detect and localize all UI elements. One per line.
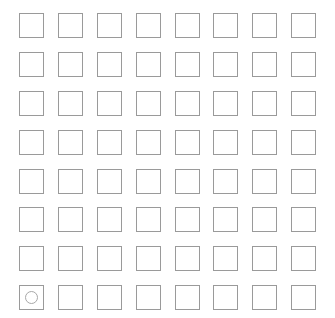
grid-cell[interactable]	[19, 13, 44, 38]
grid-cell[interactable]	[252, 285, 277, 310]
grid-cell[interactable]	[136, 285, 161, 310]
grid-cell[interactable]	[19, 285, 44, 310]
grid-cell[interactable]	[291, 246, 316, 271]
grid-cell[interactable]	[58, 130, 83, 155]
grid-cell[interactable]	[58, 91, 83, 116]
grid-cell[interactable]	[213, 52, 238, 77]
grid-canvas	[0, 0, 335, 318]
grid-cell[interactable]	[97, 91, 122, 116]
grid-cell[interactable]	[252, 246, 277, 271]
grid-cell[interactable]	[19, 91, 44, 116]
grid-cell[interactable]	[291, 130, 316, 155]
grid-cell[interactable]	[136, 207, 161, 232]
grid-cell[interactable]	[252, 52, 277, 77]
grid-cell[interactable]	[213, 91, 238, 116]
grid-cell[interactable]	[136, 169, 161, 194]
grid-cell[interactable]	[213, 169, 238, 194]
grid-cell[interactable]	[19, 130, 44, 155]
grid-cell[interactable]	[136, 130, 161, 155]
grid-cell[interactable]	[213, 13, 238, 38]
grid-cell[interactable]	[291, 91, 316, 116]
grid-cell[interactable]	[58, 13, 83, 38]
grid-cell[interactable]	[58, 169, 83, 194]
grid-cell[interactable]	[213, 285, 238, 310]
grid-cell[interactable]	[175, 169, 200, 194]
grid-cell[interactable]	[175, 207, 200, 232]
grid-cell[interactable]	[97, 285, 122, 310]
grid-cell[interactable]	[97, 169, 122, 194]
grid-cell[interactable]	[19, 246, 44, 271]
grid-cell[interactable]	[252, 130, 277, 155]
grid-cell[interactable]	[136, 246, 161, 271]
grid-cell[interactable]	[291, 13, 316, 38]
grid-cell[interactable]	[213, 246, 238, 271]
grid-cell[interactable]	[19, 169, 44, 194]
grid-cell[interactable]	[252, 91, 277, 116]
grid-cell[interactable]	[291, 52, 316, 77]
grid-cell[interactable]	[252, 207, 277, 232]
grid-cell[interactable]	[175, 130, 200, 155]
grid-cell[interactable]	[58, 246, 83, 271]
grid-cell[interactable]	[175, 52, 200, 77]
grid-cell[interactable]	[252, 169, 277, 194]
grid-cell[interactable]	[97, 130, 122, 155]
grid-cell[interactable]	[175, 285, 200, 310]
grid-cell[interactable]	[58, 207, 83, 232]
circle-icon	[25, 291, 38, 304]
grid-cell[interactable]	[175, 13, 200, 38]
grid-cell[interactable]	[291, 285, 316, 310]
grid-cell[interactable]	[213, 207, 238, 232]
grid-cell[interactable]	[58, 52, 83, 77]
grid-cell[interactable]	[175, 91, 200, 116]
grid-cell[interactable]	[97, 246, 122, 271]
grid-cell[interactable]	[252, 13, 277, 38]
grid-cell[interactable]	[97, 13, 122, 38]
grid-cell[interactable]	[97, 52, 122, 77]
grid-cell[interactable]	[213, 130, 238, 155]
grid-cell[interactable]	[58, 285, 83, 310]
grid-cell[interactable]	[175, 246, 200, 271]
grid-cell[interactable]	[97, 207, 122, 232]
square-grid	[19, 13, 316, 310]
grid-cell[interactable]	[136, 52, 161, 77]
grid-cell[interactable]	[291, 207, 316, 232]
grid-cell[interactable]	[136, 13, 161, 38]
grid-cell[interactable]	[136, 91, 161, 116]
grid-cell[interactable]	[19, 52, 44, 77]
grid-cell[interactable]	[19, 207, 44, 232]
grid-cell[interactable]	[291, 169, 316, 194]
